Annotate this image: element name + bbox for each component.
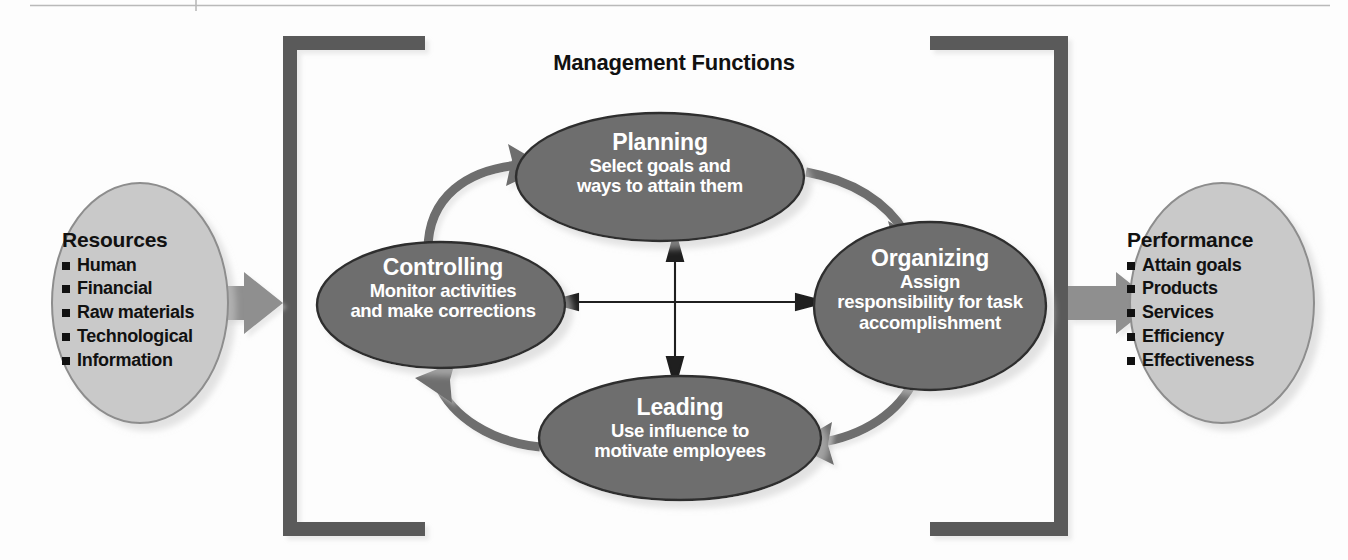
page-top-rule — [30, 0, 1330, 11]
organizing-ellipse — [814, 222, 1046, 390]
leading-ellipse — [539, 376, 821, 500]
cross-arrows — [548, 232, 826, 386]
arrow-leading-to-controlling — [438, 384, 540, 447]
planning-ellipse — [516, 113, 804, 241]
diagram-title: Management Functions — [0, 50, 1348, 76]
controlling-ellipse — [317, 242, 565, 368]
resources-ellipse — [52, 183, 228, 423]
diagram-vector-layer — [0, 0, 1348, 560]
performance-ellipse — [1130, 183, 1314, 423]
figure-canvas: Management Functions Resources Human Fin… — [0, 0, 1348, 560]
arrow-controlling-to-planning — [428, 165, 518, 250]
